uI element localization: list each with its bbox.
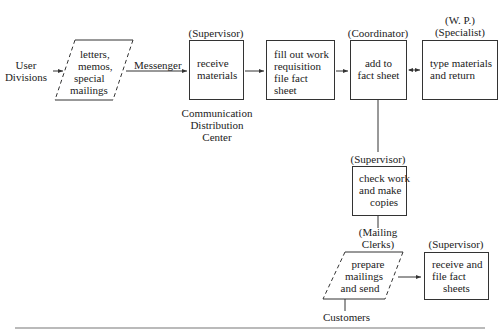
caption-communication-distribution-center: Communication Distribution Center <box>176 107 258 143</box>
node-text: receive <box>197 57 229 69</box>
node-text: add to <box>351 57 406 69</box>
node-add-to-fact-sheet: add to fact sheet <box>350 40 407 100</box>
sink-label-customers: Customers <box>323 311 370 323</box>
node-text: sheets <box>443 282 470 294</box>
node-check-work: check work and make copies <box>352 166 407 216</box>
node-receive-file-fact-sheets: receive and file fact sheets <box>424 252 489 300</box>
caption-line: Distribution <box>176 119 258 131</box>
source-line-2: Divisions <box>2 71 50 83</box>
node-text: requisition <box>274 60 321 72</box>
caption-line: Communication <box>176 107 258 119</box>
role-supervisor-1: (Supervisor) <box>182 27 250 39</box>
input-doc-line-2: memos, <box>78 60 113 72</box>
node-prepare-mailings-line-3: and send <box>332 282 388 294</box>
node-text: copies <box>370 196 398 208</box>
role-supervisor-2: (Supervisor) <box>342 153 414 165</box>
role-line: (Mailing <box>350 226 406 238</box>
node-text: fact sheet <box>351 69 406 81</box>
source-label-user-divisions: User Divisions <box>2 59 50 83</box>
node-text: type materials <box>430 57 492 69</box>
node-receive-materials: receive materials <box>189 40 244 100</box>
input-doc-line-1: letters, <box>80 48 110 60</box>
caption-line: Center <box>176 131 258 143</box>
role-supervisor-3: (Supervisor) <box>418 238 494 250</box>
node-prepare-mailings-line-1: prepare <box>340 258 396 270</box>
edge-label-messenger: Messenger <box>134 59 182 71</box>
node-text: file fact <box>432 270 466 282</box>
node-text: and return <box>430 69 475 81</box>
input-doc-line-3: special <box>74 72 105 84</box>
input-doc-line-4: mailings <box>70 84 108 96</box>
role-specialist: (Specialist) <box>424 26 496 38</box>
role-wp: (W. P.) <box>430 14 490 26</box>
node-text: materials <box>197 69 237 81</box>
node-text: sheet <box>274 84 297 96</box>
node-text: file fact <box>274 72 308 84</box>
node-text: and make <box>359 184 401 196</box>
node-text: check work <box>359 172 410 184</box>
node-text: receive and <box>432 258 482 270</box>
role-mailing-clerks: (Mailing Clerks) <box>350 226 406 250</box>
source-line-1: User <box>2 59 50 71</box>
node-prepare-mailings-line-2: mailings <box>336 270 392 282</box>
role-line: Clerks) <box>350 238 406 250</box>
role-coordinator: (Coordinator) <box>342 27 414 39</box>
node-type-materials: type materials and return <box>422 40 498 100</box>
node-fill-out-requisition: fill out work requisition file fact shee… <box>266 40 335 100</box>
node-text: fill out work <box>274 48 329 60</box>
